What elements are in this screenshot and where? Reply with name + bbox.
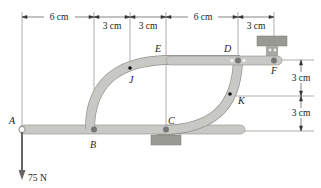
dim-top-3: 3 cm	[139, 21, 158, 31]
label-d: D	[223, 43, 232, 54]
member-ac	[19, 125, 245, 134]
load-arrow	[19, 132, 26, 180]
label-k: K	[237, 95, 246, 106]
dim-right-2: 3 cm	[292, 108, 311, 118]
label-f: F	[270, 65, 278, 76]
member-df	[166, 56, 282, 65]
support-f	[257, 36, 287, 58]
right-dimension-lines	[300, 60, 303, 131]
dim-right-1: 3 cm	[292, 73, 311, 83]
dim-top-5: 3 cm	[247, 21, 266, 31]
dim-top-2: 3 cm	[103, 21, 122, 31]
label-a: A	[8, 115, 16, 126]
label-j: J	[129, 74, 134, 85]
diagram-svg: 6 cm 3 cm 3 cm 6 cm 3 cm 3 cm 3 cm	[0, 0, 321, 188]
mechanism-diagram: 6 cm 3 cm 3 cm 6 cm 3 cm 3 cm 3 cm	[0, 0, 321, 188]
label-e: E	[154, 43, 161, 54]
label-c: C	[168, 115, 175, 126]
load-label: 75 N	[28, 173, 47, 183]
dim-top-1: 6 cm	[50, 12, 69, 22]
label-b: B	[90, 139, 96, 150]
dim-top-4: 6 cm	[194, 12, 213, 22]
